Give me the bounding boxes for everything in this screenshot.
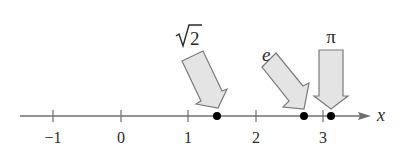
tick-label-0: 0 <box>117 129 125 146</box>
sqrt2-radicand: 2 <box>190 28 200 49</box>
pi-pointer-arrow-icon <box>314 50 348 109</box>
point-pi <box>327 112 335 120</box>
tick-label-minus-1: −1 <box>44 129 61 146</box>
tick-label-1: 1 <box>184 129 192 146</box>
point-e <box>300 112 308 120</box>
tick-label-2: 2 <box>252 129 260 146</box>
point-sqrt2 <box>213 112 221 120</box>
e-label: e <box>262 44 270 65</box>
sqrt2-label: 2 <box>176 25 202 49</box>
tick-label-3: 3 <box>319 129 327 146</box>
x-axis-label: x <box>376 105 385 125</box>
number-line-diagram: x −1 0 1 2 3 2 e π <box>0 0 404 161</box>
sqrt2-pointer-arrow-icon <box>182 51 227 108</box>
pi-label: π <box>326 26 336 47</box>
